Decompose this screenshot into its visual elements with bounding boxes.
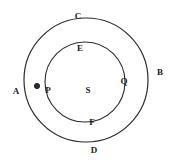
geometry-figure: C E B Q A S F D P — [0, 0, 174, 163]
inner-circle — [45, 42, 125, 122]
label-point-q: Q — [120, 77, 127, 86]
label-point-f: F — [89, 118, 95, 127]
label-point-c: C — [75, 12, 82, 21]
concentric-circles-drawing — [0, 0, 174, 163]
label-point-e: E — [77, 44, 83, 53]
label-center-s: S — [85, 86, 90, 95]
outer-circle — [24, 18, 148, 142]
point-p-marker-dot — [34, 83, 39, 88]
label-point-a: A — [13, 87, 20, 96]
label-point-p: P — [45, 86, 51, 95]
label-point-b: B — [157, 68, 163, 77]
label-point-d: D — [91, 146, 98, 155]
